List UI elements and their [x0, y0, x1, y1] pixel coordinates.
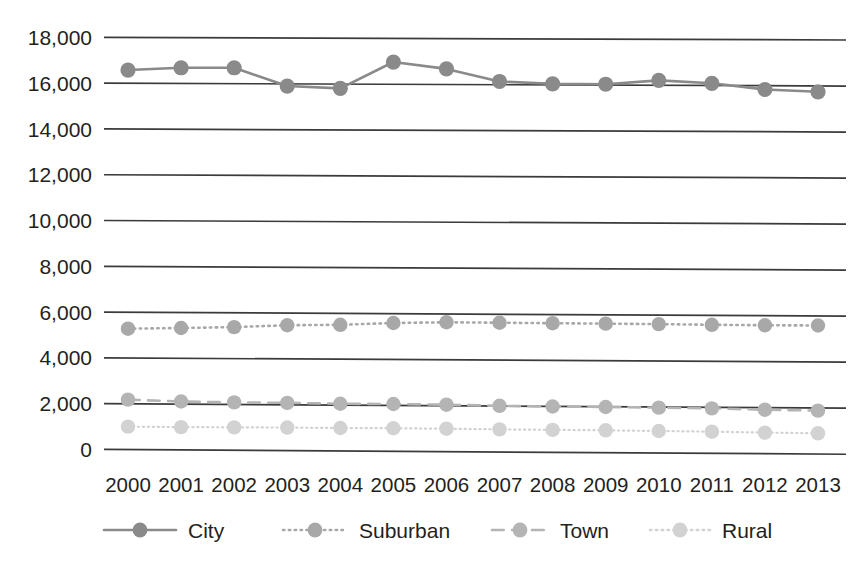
- legend-marker: [513, 523, 528, 538]
- x-axis-tick-label: 2012: [742, 473, 788, 496]
- data-point: [811, 426, 825, 440]
- data-point: [598, 400, 612, 414]
- data-point: [705, 424, 719, 438]
- data-point: [651, 73, 666, 88]
- legend: CitySuburbanTownRural: [104, 519, 772, 542]
- data-point: [121, 392, 135, 406]
- legend-label: Town: [560, 519, 609, 542]
- gridline: [104, 129, 846, 132]
- data-point: [227, 395, 241, 409]
- data-point: [333, 397, 347, 411]
- gridline: [104, 37, 846, 40]
- y-axis-tick-label: 14,000: [28, 118, 92, 141]
- x-axis-tick-label: 2003: [264, 473, 310, 496]
- data-point: [811, 403, 825, 417]
- data-point: [439, 422, 453, 436]
- data-point: [333, 318, 347, 332]
- y-axis-tick-label: 12,000: [28, 163, 92, 186]
- data-point: [174, 420, 188, 434]
- data-point: [598, 316, 612, 330]
- y-axis-tick-label: 10,000: [28, 209, 92, 232]
- x-axis-tick-label: 2010: [636, 473, 682, 496]
- series-city: [120, 54, 825, 99]
- x-axis-tick-label: 2005: [371, 473, 417, 496]
- data-point: [386, 316, 400, 330]
- series-group: [120, 54, 825, 440]
- y-axis-tick-label: 18,000: [28, 26, 92, 49]
- legend-marker: [308, 523, 323, 538]
- data-point: [545, 316, 559, 330]
- legend-item-town[interactable]: Town: [492, 519, 609, 542]
- data-point: [705, 318, 719, 332]
- data-point: [439, 397, 453, 411]
- data-point: [121, 419, 135, 433]
- gridline: [104, 449, 846, 454]
- x-axis-tick-label: 2011: [690, 473, 734, 496]
- data-point: [652, 400, 666, 414]
- data-point: [174, 321, 188, 335]
- data-point: [386, 54, 401, 69]
- x-axis-labels-group: 2000200120022003200420052006200720082009…: [105, 473, 841, 496]
- x-axis-tick-label: 2013: [795, 473, 841, 496]
- data-point: [439, 61, 454, 76]
- data-point: [492, 74, 507, 89]
- data-point: [758, 403, 772, 417]
- y-axis-tick-label: 4,000: [39, 346, 92, 369]
- legend-item-city[interactable]: City: [104, 519, 225, 542]
- data-point: [705, 401, 719, 415]
- x-axis-tick-label: 2008: [530, 473, 576, 496]
- y-axis-tick-label: 8,000: [39, 255, 92, 278]
- gridline: [104, 312, 846, 316]
- data-point: [227, 60, 242, 75]
- x-axis-tick-label: 2000: [105, 473, 151, 496]
- data-point: [173, 60, 188, 75]
- data-point: [704, 76, 719, 91]
- data-point: [652, 424, 666, 438]
- data-point: [652, 317, 666, 331]
- legend-marker: [673, 523, 688, 538]
- y-axis-tick-label: 6,000: [39, 301, 92, 324]
- legend-label: Rural: [722, 519, 772, 542]
- data-point: [757, 82, 772, 97]
- data-point: [598, 423, 612, 437]
- data-point: [227, 320, 241, 334]
- legend-marker: [133, 523, 148, 538]
- data-point: [545, 399, 559, 413]
- data-point: [386, 421, 400, 435]
- data-point: [280, 78, 295, 93]
- x-axis-tick-label: 2007: [477, 473, 523, 496]
- data-point: [545, 76, 560, 91]
- data-point: [227, 420, 241, 434]
- data-point: [758, 425, 772, 439]
- x-axis-tick-label: 2002: [211, 473, 257, 496]
- data-point: [280, 318, 294, 332]
- data-point: [810, 84, 825, 99]
- data-point: [280, 420, 294, 434]
- x-axis-tick-label: 2001: [158, 473, 204, 496]
- gridline: [104, 221, 846, 225]
- y-axis-tick-label: 0: [80, 438, 92, 461]
- data-point: [758, 318, 772, 332]
- data-point: [492, 316, 506, 330]
- data-point: [333, 421, 347, 435]
- legend-label: City: [188, 519, 225, 542]
- data-point: [280, 396, 294, 410]
- y-axis-labels-group: 18,00016,00014,00012,00010,0008,0006,000…: [28, 26, 92, 461]
- legend-item-suburban[interactable]: Suburban: [283, 519, 450, 542]
- data-point: [492, 399, 506, 413]
- gridlines-group: [104, 37, 846, 454]
- series-rural: [121, 419, 825, 440]
- series-suburban: [121, 315, 825, 336]
- chart-container: 18,00016,00014,00012,00010,0008,0006,000…: [0, 0, 858, 572]
- legend-item-rural[interactable]: Rural: [650, 519, 772, 542]
- x-axis-tick-label: 2004: [318, 473, 364, 496]
- data-point: [174, 394, 188, 408]
- data-point: [121, 321, 135, 335]
- x-axis-tick-label: 2009: [583, 473, 629, 496]
- gridline: [104, 175, 846, 178]
- x-axis-tick-label: 2006: [424, 473, 470, 496]
- y-axis-tick-label: 16,000: [28, 72, 92, 95]
- data-point: [811, 318, 825, 332]
- data-point: [492, 422, 506, 436]
- y-axis-tick-label: 2,000: [39, 392, 92, 415]
